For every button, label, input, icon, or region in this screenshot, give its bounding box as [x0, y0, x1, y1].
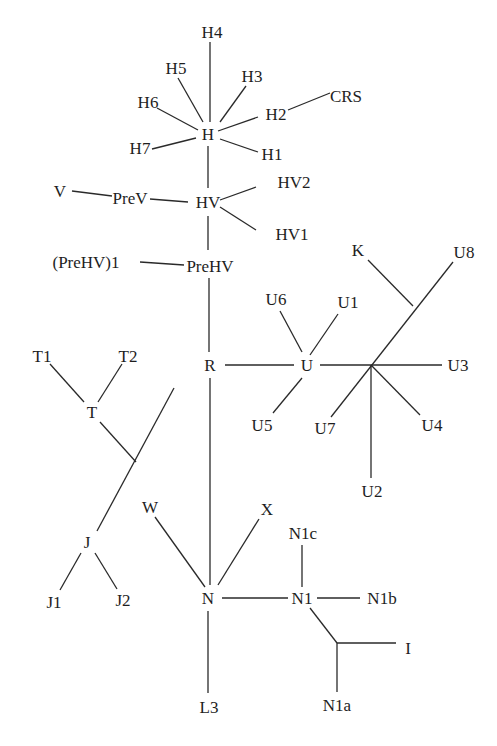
- tree-edge: [155, 517, 205, 587]
- tree-edge: [288, 93, 330, 110]
- tree-edge: [72, 191, 112, 196]
- tree-node-labels: H4H5H3H6CRSH2HH7H1HV2VPreVHVHV1(PreHV)1P…: [33, 23, 475, 717]
- node-label-h5: H5: [166, 59, 187, 78]
- node-label-n1: N1: [292, 589, 313, 608]
- tree-edge: [150, 199, 188, 202]
- tree-edge: [218, 117, 258, 131]
- node-label-h3: H3: [242, 67, 263, 86]
- tree-edge: [310, 314, 338, 355]
- node-label-u2: U2: [362, 482, 383, 501]
- tree-edge: [368, 260, 413, 306]
- node-label-u3: U3: [448, 356, 469, 375]
- node-label-hv2: HV2: [277, 173, 310, 192]
- node-label-prehv: PreHV: [186, 257, 234, 276]
- node-label-u8: U8: [454, 243, 475, 262]
- tree-edge: [60, 553, 81, 590]
- node-label-crs: CRS: [330, 87, 362, 106]
- node-label-h: H: [202, 125, 214, 144]
- node-label-n1c: N1c: [289, 524, 318, 543]
- tree-edge: [280, 311, 302, 352]
- node-label-h7: H7: [130, 139, 151, 158]
- node-label-t1: T1: [33, 347, 52, 366]
- tree-edge: [157, 108, 198, 130]
- tree-edge: [152, 138, 196, 149]
- node-label-h2: H2: [266, 105, 287, 124]
- tree-edge: [220, 207, 256, 230]
- node-label-u5: U5: [252, 416, 273, 435]
- tree-edge: [220, 187, 256, 200]
- tree-edge: [218, 519, 259, 585]
- node-label-u1: U1: [338, 293, 359, 312]
- node-label-prev: PreV: [113, 189, 149, 208]
- phylogenetic-tree-diagram: H4H5H3H6CRSH2HH7H1HV2VPreVHVHV1(PreHV)1P…: [0, 0, 497, 746]
- node-label-h6: H6: [138, 93, 159, 112]
- tree-edge: [371, 365, 420, 415]
- tree-edge: [98, 364, 122, 402]
- node-label-x: X: [261, 500, 273, 519]
- node-label-r: R: [204, 356, 216, 375]
- node-label-hv1: HV1: [275, 225, 308, 244]
- tree-edge: [100, 422, 136, 462]
- tree-edge: [178, 78, 203, 122]
- node-label-prehv1: (PreHV)1: [52, 253, 119, 272]
- node-label-j1: J1: [46, 593, 61, 612]
- node-label-i: I: [405, 639, 411, 658]
- node-label-u6: U6: [266, 290, 287, 309]
- node-label-v: V: [54, 182, 67, 201]
- node-label-t: T: [87, 403, 98, 422]
- node-label-n1a: N1a: [323, 696, 352, 715]
- tree-edge: [273, 378, 302, 413]
- tree-edge: [140, 262, 184, 265]
- node-label-w: W: [142, 498, 159, 517]
- node-label-j2: J2: [115, 591, 130, 610]
- node-label-u: U: [301, 356, 313, 375]
- node-label-l3: L3: [200, 698, 219, 717]
- node-label-t2: T2: [119, 347, 138, 366]
- tree-svg: H4H5H3H6CRSH2HH7H1HV2VPreVHVHV1(PreHV)1P…: [0, 0, 497, 746]
- tree-edge: [97, 388, 174, 531]
- node-label-h1: H1: [262, 145, 283, 164]
- node-label-hv: HV: [196, 193, 221, 212]
- node-label-n1b: N1b: [367, 589, 396, 608]
- tree-edge: [220, 86, 246, 122]
- node-label-n: N: [202, 589, 214, 608]
- tree-edge: [310, 608, 337, 643]
- node-label-h4: H4: [202, 23, 223, 42]
- tree-edge: [220, 139, 258, 152]
- node-label-u4: U4: [422, 416, 443, 435]
- node-label-k: K: [352, 241, 365, 260]
- node-label-u7: U7: [315, 419, 336, 438]
- node-label-j: J: [84, 533, 91, 552]
- tree-edge: [95, 553, 117, 589]
- tree-edge: [50, 364, 84, 402]
